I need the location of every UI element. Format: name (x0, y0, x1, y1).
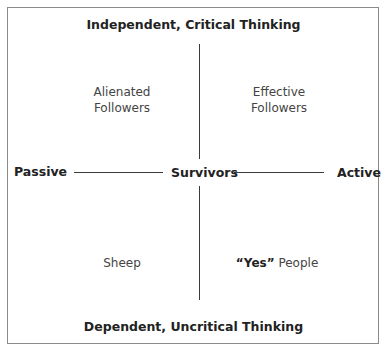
horizontal-axis-right (234, 172, 324, 173)
quadrant-top-right-line1: Effective (239, 84, 319, 100)
quadrant-bottom-right: “Yes” People (222, 255, 332, 271)
vertical-axis-bottom (199, 186, 200, 300)
top-axis-label: Independent, Critical Thinking (0, 17, 387, 32)
right-axis-label: Active (337, 165, 381, 180)
left-axis-label: Passive (14, 164, 67, 179)
people-text: People (275, 256, 319, 270)
quadrant-top-left-line1: Alienated (82, 84, 162, 100)
quadrant-top-right: Effective Followers (239, 84, 319, 116)
quadrant-top-right-line2: Followers (239, 100, 319, 116)
quadrant-bottom-left: Sheep (82, 255, 162, 271)
horizontal-axis-left (74, 172, 163, 173)
bottom-axis-label: Dependent, Uncritical Thinking (0, 319, 387, 334)
quadrant-top-left: Alienated Followers (82, 84, 162, 116)
quadrant-top-left-line2: Followers (82, 100, 162, 116)
center-label: Survivors (171, 165, 238, 180)
yes-bold: “Yes” (236, 256, 275, 270)
vertical-axis-top (199, 44, 200, 159)
